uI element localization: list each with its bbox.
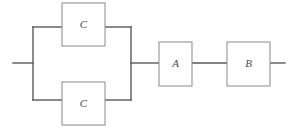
block-c-bottom: C xyxy=(62,82,105,125)
block-a-label: A xyxy=(171,57,179,69)
block-b: B xyxy=(227,42,270,86)
block-b-label: B xyxy=(245,57,252,69)
block-c-top-label: C xyxy=(80,18,88,30)
block-a: A xyxy=(159,42,192,86)
block-diagram-canvas: C C A B xyxy=(0,0,291,133)
block-diagram-container: C C A B xyxy=(0,0,291,133)
block-c-bottom-label: C xyxy=(80,97,88,109)
block-c-top: C xyxy=(62,3,105,46)
